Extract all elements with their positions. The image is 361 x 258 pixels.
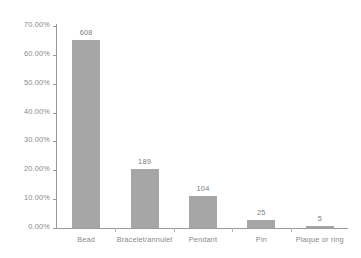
bar-value-label: 104 xyxy=(197,184,210,193)
x-axis-category-label: Pendant xyxy=(174,235,232,244)
x-axis-tick-mark xyxy=(174,228,175,232)
y-axis-tick-mark xyxy=(53,228,57,229)
bar xyxy=(72,40,100,228)
x-axis-category-label: Bead xyxy=(57,235,115,244)
bar xyxy=(131,169,159,228)
bar-group: 189 xyxy=(115,26,173,228)
x-axis-line xyxy=(57,228,348,229)
x-axis-tick-mark xyxy=(232,228,233,232)
plot-area: 608189104255 xyxy=(57,26,349,228)
bar xyxy=(306,226,334,228)
x-axis-category-label: Plaque or ring xyxy=(291,235,349,244)
bar-value-label: 608 xyxy=(80,28,93,37)
x-axis-tick-mark xyxy=(115,228,116,232)
bar xyxy=(189,196,217,228)
y-axis-tick-label: 50.00% xyxy=(24,78,50,87)
x-axis-category-label: Pin xyxy=(232,235,290,244)
y-axis-tick-label: 40.00% xyxy=(24,107,50,116)
x-axis-tick-mark xyxy=(291,228,292,232)
y-axis-tick-label: 60.00% xyxy=(24,49,50,58)
bar-value-label: 5 xyxy=(318,214,322,223)
y-axis-tick-label: 30.00% xyxy=(24,135,50,144)
x-axis-category-label: Bracelet/annulet xyxy=(115,235,173,244)
y-axis-tick-label: 70.00% xyxy=(24,20,50,29)
y-axis-tick-label: 20.00% xyxy=(24,164,50,173)
bar-group: 104 xyxy=(174,26,232,228)
y-axis-tick-label: 10.00% xyxy=(24,193,50,202)
bar-value-label: 25 xyxy=(257,208,266,217)
bar-group: 25 xyxy=(232,26,290,228)
y-axis-tick-label: 0.00% xyxy=(28,222,50,231)
bar-value-label: 189 xyxy=(138,157,151,166)
bar-chart: 70.00%60.00%50.00%40.00%30.00%20.00%10.0… xyxy=(0,0,361,258)
bar-group: 5 xyxy=(291,26,349,228)
bar-group: 608 xyxy=(57,26,115,228)
bar xyxy=(247,220,275,228)
